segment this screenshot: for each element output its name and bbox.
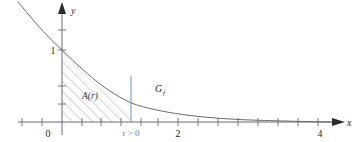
curve-label-subscript: f <box>163 89 166 97</box>
origin-label: 0 <box>46 128 51 139</box>
plot-svg: y x 1 0 2 4 A(r) r > 0 G f <box>0 0 359 142</box>
area-label: A(r) <box>81 91 98 102</box>
x-axis-label: x <box>346 117 352 128</box>
r-label: r > 0 <box>122 128 140 138</box>
y-tick-label-1: 1 <box>51 45 56 56</box>
math-figure: y x 1 0 2 4 A(r) r > 0 G f <box>0 0 359 142</box>
shaded-area-A-of-r <box>62 50 131 122</box>
x-tick-label-2: 2 <box>176 128 181 139</box>
curve-label: G f <box>155 83 166 97</box>
y-axis-label: y <box>70 5 76 16</box>
curve-label-main: G <box>155 83 162 94</box>
x-tick-label-4: 4 <box>318 128 323 139</box>
